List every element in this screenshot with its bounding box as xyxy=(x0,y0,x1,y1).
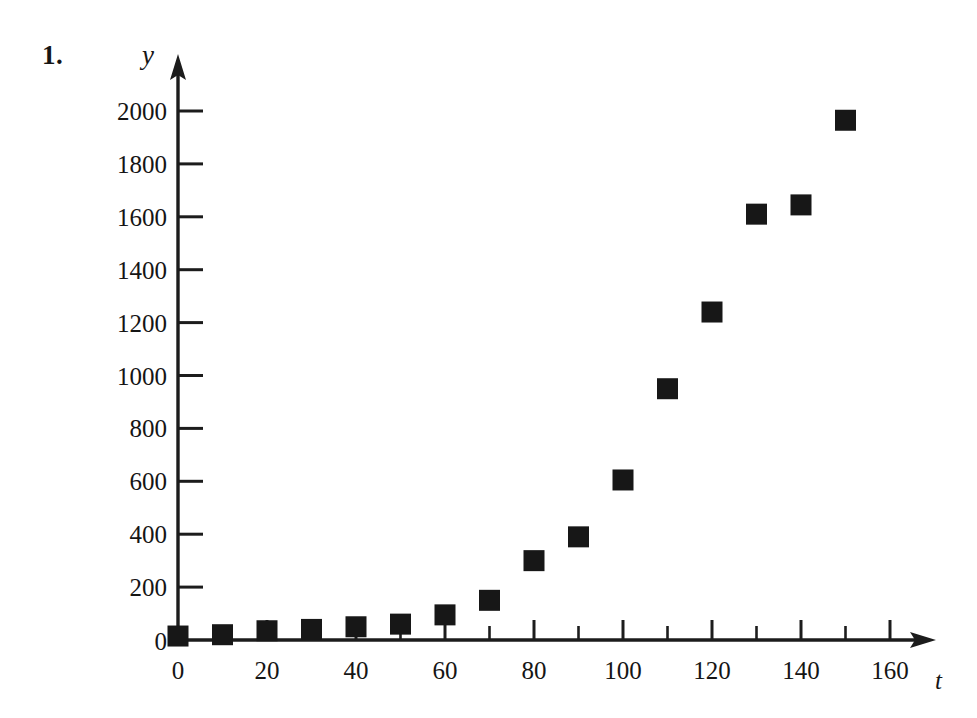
scatter-plot-figure: 1. y t 200400600800100012001400160018002… xyxy=(0,0,977,718)
y-tick-label: 400 xyxy=(130,521,168,548)
data-point-marker xyxy=(746,204,767,225)
x-tick-label: 120 xyxy=(693,657,731,684)
y-tick-label: 1200 xyxy=(117,310,167,337)
data-point-marker xyxy=(657,378,678,399)
data-point-marker xyxy=(435,604,456,625)
x-tick-label: 80 xyxy=(522,657,547,684)
data-point-marker xyxy=(390,614,411,635)
data-point-marker xyxy=(346,616,367,637)
data-point-marker xyxy=(835,110,856,131)
y-axis-tick-labels: 200400600800100012001400160018002000 xyxy=(117,98,167,601)
data-point-series xyxy=(168,110,857,647)
plot-area: 200400600800100012001400160018002000 020… xyxy=(0,0,977,718)
y-tick-label: 1800 xyxy=(117,151,167,178)
y-tick-label: 1400 xyxy=(117,257,167,284)
y-tick-label: 800 xyxy=(130,415,168,442)
data-point-marker xyxy=(301,619,322,640)
y-axis-ticks xyxy=(178,111,203,587)
y-tick-label: 200 xyxy=(130,574,168,601)
x-tick-label: 160 xyxy=(871,657,909,684)
y-tick-label: 2000 xyxy=(117,98,167,125)
origin-zero-label: 0 xyxy=(155,628,168,655)
origin-label: 0 xyxy=(155,628,168,655)
x-axis-ticks xyxy=(223,620,891,640)
data-point-marker xyxy=(168,626,189,647)
x-axis-tick-labels: 020406080100120140160 xyxy=(172,657,909,684)
data-point-marker xyxy=(212,624,233,645)
data-point-marker xyxy=(613,469,634,490)
x-tick-label: 100 xyxy=(604,657,642,684)
data-point-marker xyxy=(479,590,500,611)
data-point-marker xyxy=(524,550,545,571)
x-tick-label: 20 xyxy=(255,657,280,684)
x-tick-label: 40 xyxy=(344,657,369,684)
data-point-marker xyxy=(702,302,723,323)
x-tick-label: 140 xyxy=(782,657,820,684)
y-tick-label: 600 xyxy=(130,468,168,495)
x-tick-label: 0 xyxy=(172,657,185,684)
y-tick-label: 1600 xyxy=(117,204,167,231)
data-point-marker xyxy=(568,526,589,547)
x-tick-label: 60 xyxy=(433,657,458,684)
data-point-marker xyxy=(791,194,812,215)
data-point-marker xyxy=(257,620,278,641)
y-tick-label: 1000 xyxy=(117,363,167,390)
